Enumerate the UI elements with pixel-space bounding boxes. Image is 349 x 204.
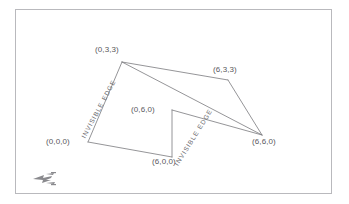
vertex-label-v_0_0_0: (0,0,0)	[46, 137, 70, 146]
vertex-label-v_6_6_0: (6,6,0)	[252, 137, 276, 146]
publisher-logo-watermark	[30, 169, 60, 189]
vertex-label-v_0_3_3: (0,3,3)	[95, 45, 119, 54]
vertex-label-v_0_6_0: (0,6,0)	[131, 105, 155, 114]
vertex-label-v_6_0_0: (6,0,0)	[152, 157, 176, 166]
edge-e_bottom_front	[88, 142, 172, 157]
vertex-label-v_6_3_3: (6,3,3)	[213, 65, 237, 74]
diagram-page: (0,3,3)(6,3,3)(0,6,0)(6,6,0)(0,0,0)(6,0,…	[0, 0, 349, 204]
edge-e_left_slope	[122, 62, 262, 135]
